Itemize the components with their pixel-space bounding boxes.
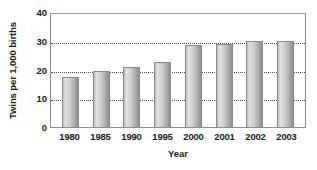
bar-chart-figure: Twins per 1,000 births 40 30 20 10 0 198… — [0, 0, 317, 170]
y-tick-label-20: 20 — [36, 66, 47, 76]
bar-1990[interactable] — [123, 67, 140, 127]
bar-1980[interactable] — [62, 77, 79, 127]
bar-1985[interactable] — [93, 71, 110, 127]
bar-slot-2000 — [178, 14, 209, 127]
plot-area — [50, 13, 306, 128]
y-axis-title-text: Twins per 1,000 births — [7, 22, 18, 119]
bars-layer — [51, 14, 305, 127]
bar-2001[interactable] — [216, 44, 233, 127]
y-tick-label-10: 10 — [36, 95, 47, 105]
y-tick-label-40: 40 — [36, 8, 47, 18]
bar-2002[interactable] — [246, 41, 263, 127]
bar-slot-2001 — [209, 14, 240, 127]
x-tick-label-1990: 1990 — [116, 130, 147, 144]
y-tick-label-30: 30 — [36, 37, 47, 47]
bar-slot-1985 — [86, 14, 117, 127]
bar-1995[interactable] — [154, 62, 171, 127]
x-axis-tick-labels: 1980 1985 1990 1995 2000 2001 2002 2003 — [50, 130, 306, 144]
x-tick-label-1995: 1995 — [147, 130, 178, 144]
y-axis-tick-labels: 40 30 20 10 0 — [24, 0, 50, 140]
x-tick-label-2001: 2001 — [209, 130, 240, 144]
bar-slot-2002 — [240, 14, 271, 127]
y-tick-label-0: 0 — [42, 123, 47, 133]
x-tick-label-1980: 1980 — [54, 130, 85, 144]
bar-2003[interactable] — [277, 41, 294, 127]
y-axis-title: Twins per 1,000 births — [0, 0, 24, 140]
bar-slot-1980 — [55, 14, 86, 127]
bar-slot-1995 — [147, 14, 178, 127]
x-tick-label-1985: 1985 — [85, 130, 116, 144]
bar-slot-1990 — [117, 14, 148, 127]
x-axis-title: Year — [50, 148, 306, 159]
bar-2000[interactable] — [185, 45, 202, 127]
x-tick-label-2000: 2000 — [178, 130, 209, 144]
x-tick-label-2002: 2002 — [240, 130, 271, 144]
bar-slot-2003 — [270, 14, 301, 127]
x-tick-label-2003: 2003 — [271, 130, 302, 144]
